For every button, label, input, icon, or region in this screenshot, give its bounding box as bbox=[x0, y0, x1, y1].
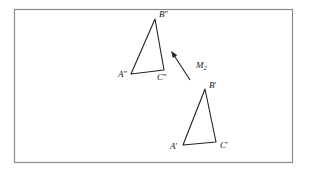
vertex-label-a-double-prime-mark: ″ bbox=[124, 69, 128, 79]
vertex-label-a-double-prime: A″ bbox=[117, 69, 128, 79]
vertex-label-b-double-prime-mark: ″ bbox=[165, 9, 169, 19]
vertex-label-c-double-prime-mark: ″ bbox=[163, 72, 167, 82]
vertex-label-b-prime: B′ bbox=[209, 80, 217, 90]
vertex-label-c-double-prime: C″ bbox=[157, 72, 167, 82]
figure-background bbox=[0, 0, 309, 173]
vertex-label-b-prime-mark: ′ bbox=[215, 80, 217, 90]
geometry-figure: A″ B″ C″ A′ B′ C′ M2 bbox=[0, 0, 309, 173]
vertex-label-a-prime-mark: ′ bbox=[176, 141, 178, 151]
vertex-label-a-prime: A′ bbox=[169, 141, 178, 151]
vertex-label-c-prime-mark: ′ bbox=[226, 140, 228, 150]
figure-canvas: A″ B″ C″ A′ B′ C′ M2 bbox=[0, 0, 309, 173]
vertex-label-b-double-prime: B″ bbox=[159, 9, 169, 19]
vertex-label-c-prime: C′ bbox=[220, 140, 228, 150]
